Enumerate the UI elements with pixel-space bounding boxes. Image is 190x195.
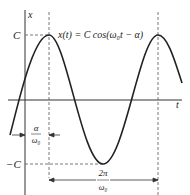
diagram-canvas: x t C −C x(t) = C cos(ω₀t − α) α ω₀ 2π ω…	[0, 0, 190, 195]
phase-shift-numerator: α	[34, 123, 39, 133]
period-numerator: 2π	[98, 168, 108, 178]
cosine-oscillation-diagram: x t C −C x(t) = C cos(ω₀t − α) α ω₀ 2π ω…	[0, 0, 190, 195]
period-denominator: ω₀	[99, 183, 108, 192]
phase-shift-denominator: ω₀	[32, 136, 41, 145]
amplitude-bottom-label: −C	[6, 158, 21, 170]
t-axis-label: t	[176, 99, 179, 110]
y-axis-label: x	[27, 9, 33, 20]
equation-label: x(t) = C cos(ω₀t − α)	[57, 29, 144, 41]
amplitude-top-label: C	[13, 29, 21, 41]
